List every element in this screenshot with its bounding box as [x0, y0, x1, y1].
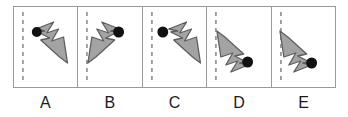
option-c-graphic	[143, 7, 206, 87]
option-label-d: D	[207, 90, 272, 115]
option-a-graphic	[14, 7, 77, 87]
option-d-graphic	[207, 7, 270, 87]
option-label-a: A	[13, 90, 78, 115]
option-panel-e[interactable]	[272, 7, 335, 87]
option-e-graphic	[272, 7, 335, 87]
option-label-e: E	[271, 90, 336, 115]
pivot-dot-icon	[32, 27, 42, 37]
option-panel-a[interactable]	[14, 7, 78, 87]
option-panel-strip	[13, 6, 336, 88]
option-b-graphic	[78, 7, 141, 87]
option-label-row: A B C D E	[13, 90, 336, 115]
option-panel-c[interactable]	[143, 7, 207, 87]
option-label-b: B	[78, 90, 143, 115]
zigzag-arrow-icon	[169, 22, 201, 63]
option-label-c: C	[142, 90, 207, 115]
zigzag-arrow-icon	[36, 22, 68, 63]
zigzag-arrow-icon	[280, 31, 312, 72]
pivot-dot-icon	[306, 58, 317, 69]
pivot-dot-icon	[242, 57, 253, 68]
answer-options-figure: A B C D E	[0, 0, 348, 117]
pivot-dot-icon	[157, 27, 168, 38]
option-panel-b[interactable]	[78, 7, 142, 87]
option-panel-d[interactable]	[207, 7, 271, 87]
pivot-dot-icon	[114, 27, 125, 38]
